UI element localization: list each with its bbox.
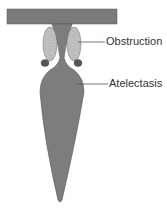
diagram-canvas — [0, 0, 167, 210]
obstruction-left — [43, 27, 57, 61]
main-bronchus — [7, 9, 117, 24]
obstruction-label: Obstruction — [106, 35, 162, 47]
nodule-left — [41, 60, 49, 67]
atelectasis-label: Atelectasis — [109, 77, 162, 89]
obstruction-right — [67, 27, 81, 61]
nodule-right — [74, 60, 82, 67]
